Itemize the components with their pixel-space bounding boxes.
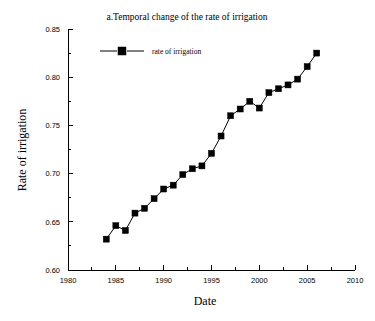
data-point-marker [180,172,186,178]
data-point-marker [142,205,148,211]
data-point-marker [237,106,243,112]
data-point-marker [275,86,281,92]
irrigation-rate-line-chart: a.Temporal change of the rate of irrigat… [0,0,375,321]
data-point-marker [266,90,272,96]
data-point-marker [209,150,215,156]
data-point-marker [218,133,224,139]
chart-title: a.Temporal change of the rate of irrigat… [106,12,267,22]
y-tick-label: 0.60 [45,266,60,275]
data-point-marker [103,236,109,242]
y-tick-label: 0.70 [45,169,60,178]
data-point-marker [228,113,234,119]
legend-marker-icon [118,47,126,55]
y-tick-label: 0.85 [45,25,60,34]
data-point-marker [113,223,119,229]
data-point-marker [151,196,157,202]
y-tick-label: 0.80 [45,73,60,82]
y-axis-title: Rate of irrigation [15,109,29,192]
x-tick-label: 2000 [251,276,268,285]
legend-label-rate-of-irrigation: rate of irrigation [152,47,201,56]
x-axis-title: Date [194,294,217,308]
data-point-marker [132,210,138,216]
data-point-marker [189,166,195,172]
x-tick-label: 2005 [299,276,316,285]
data-point-marker [314,50,320,56]
y-tick-label: 0.65 [45,218,60,227]
x-tick-label: 1995 [203,276,220,285]
data-point-marker [170,182,176,188]
chart-container: a.Temporal change of the rate of irrigat… [0,0,375,321]
y-tick-label: 0.75 [45,121,60,130]
data-point-marker [161,186,167,192]
x-tick-label: 1980 [60,276,77,285]
data-point-marker [247,98,253,104]
data-point-marker [256,105,262,111]
data-point-marker [122,227,128,233]
data-point-marker [285,82,291,88]
data-point-marker [295,76,301,82]
x-tick-label: 1990 [155,276,172,285]
x-tick-label: 2010 [347,276,364,285]
data-point-marker [304,64,310,70]
x-tick-label: 1985 [107,276,124,285]
data-point-marker [199,163,205,169]
